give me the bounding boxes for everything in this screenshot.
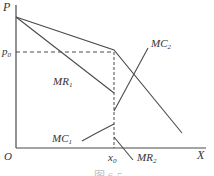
demand-curve [16, 17, 182, 133]
mc1-curve [82, 124, 114, 141]
x0-label: x0 [107, 151, 117, 165]
mc2-curve [114, 48, 148, 111]
x-axis-label: X [196, 148, 205, 162]
mr2-label: MR2 [136, 151, 157, 165]
figure-caption: 图 6-5 [94, 170, 123, 176]
origin-label: O [4, 150, 12, 162]
mr1-label: MR1 [52, 75, 72, 89]
y-axis-label: P [2, 0, 11, 14]
mc2-label: MC2 [150, 37, 172, 51]
p0-label: p0 [1, 45, 12, 59]
kinked-demand-diagram: P X O p0 x0 MR1 MC2 MC1 MR2 图 6-5 [0, 0, 214, 176]
mc1-label: MC1 [51, 132, 72, 146]
